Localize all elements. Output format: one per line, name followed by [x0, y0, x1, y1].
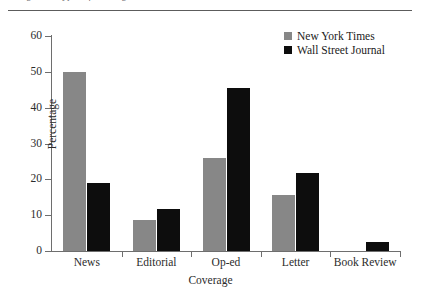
y-axis-title-text: Percentage: [46, 99, 58, 149]
x-axis-title: Coverage: [0, 274, 421, 286]
x-tick-label: Op-ed: [191, 256, 261, 268]
y-tick-label: 0: [2, 245, 42, 257]
bar-letter-wall-street-journal: [296, 173, 319, 251]
y-tick-mark: [45, 215, 51, 216]
bar-chart-figure: 0102030405060 NewsEditorialOp-edLetterBo…: [0, 0, 421, 294]
legend-label: New York Times: [297, 29, 375, 43]
y-tick-mark: [45, 251, 51, 252]
bar-news-wall-street-journal: [87, 183, 110, 251]
x-tick-mark: [400, 251, 401, 257]
x-axis-line: [51, 251, 401, 252]
bar-letter-new-york-times: [272, 195, 295, 251]
bar-editorial-wall-street-journal: [157, 209, 180, 251]
y-tick-label: 30: [2, 138, 42, 150]
bar-book-review-wall-street-journal: [366, 242, 389, 251]
y-axis-title: Percentage: [46, 64, 58, 184]
legend-item: Wall Street Journal: [284, 43, 385, 57]
y-tick-mark: [45, 36, 51, 37]
legend-label: Wall Street Journal: [297, 43, 385, 57]
y-tick-label: 20: [2, 173, 42, 185]
x-tick-label: Letter: [261, 256, 331, 268]
legend-swatch-icon: [284, 46, 292, 54]
bar-editorial-new-york-times: [133, 220, 156, 251]
x-axis-title-text: Coverage: [188, 274, 232, 286]
legend-item: New York Times: [284, 29, 385, 43]
y-tick-label: 40: [2, 102, 42, 114]
y-tick-label: 60: [2, 30, 42, 42]
x-tick-label: Book Review: [330, 256, 400, 268]
x-tick-label: News: [52, 256, 122, 268]
y-tick-label: 10: [2, 209, 42, 221]
bar-news-new-york-times: [63, 72, 86, 251]
plot-area: [52, 36, 400, 251]
bar-op-ed-new-york-times: [203, 158, 226, 251]
y-tick-label: 50: [2, 66, 42, 78]
bar-op-ed-wall-street-journal: [227, 88, 250, 251]
chart-legend: New York TimesWall Street Journal: [284, 29, 385, 57]
legend-swatch-icon: [284, 32, 292, 40]
x-tick-label: Editorial: [122, 256, 192, 268]
